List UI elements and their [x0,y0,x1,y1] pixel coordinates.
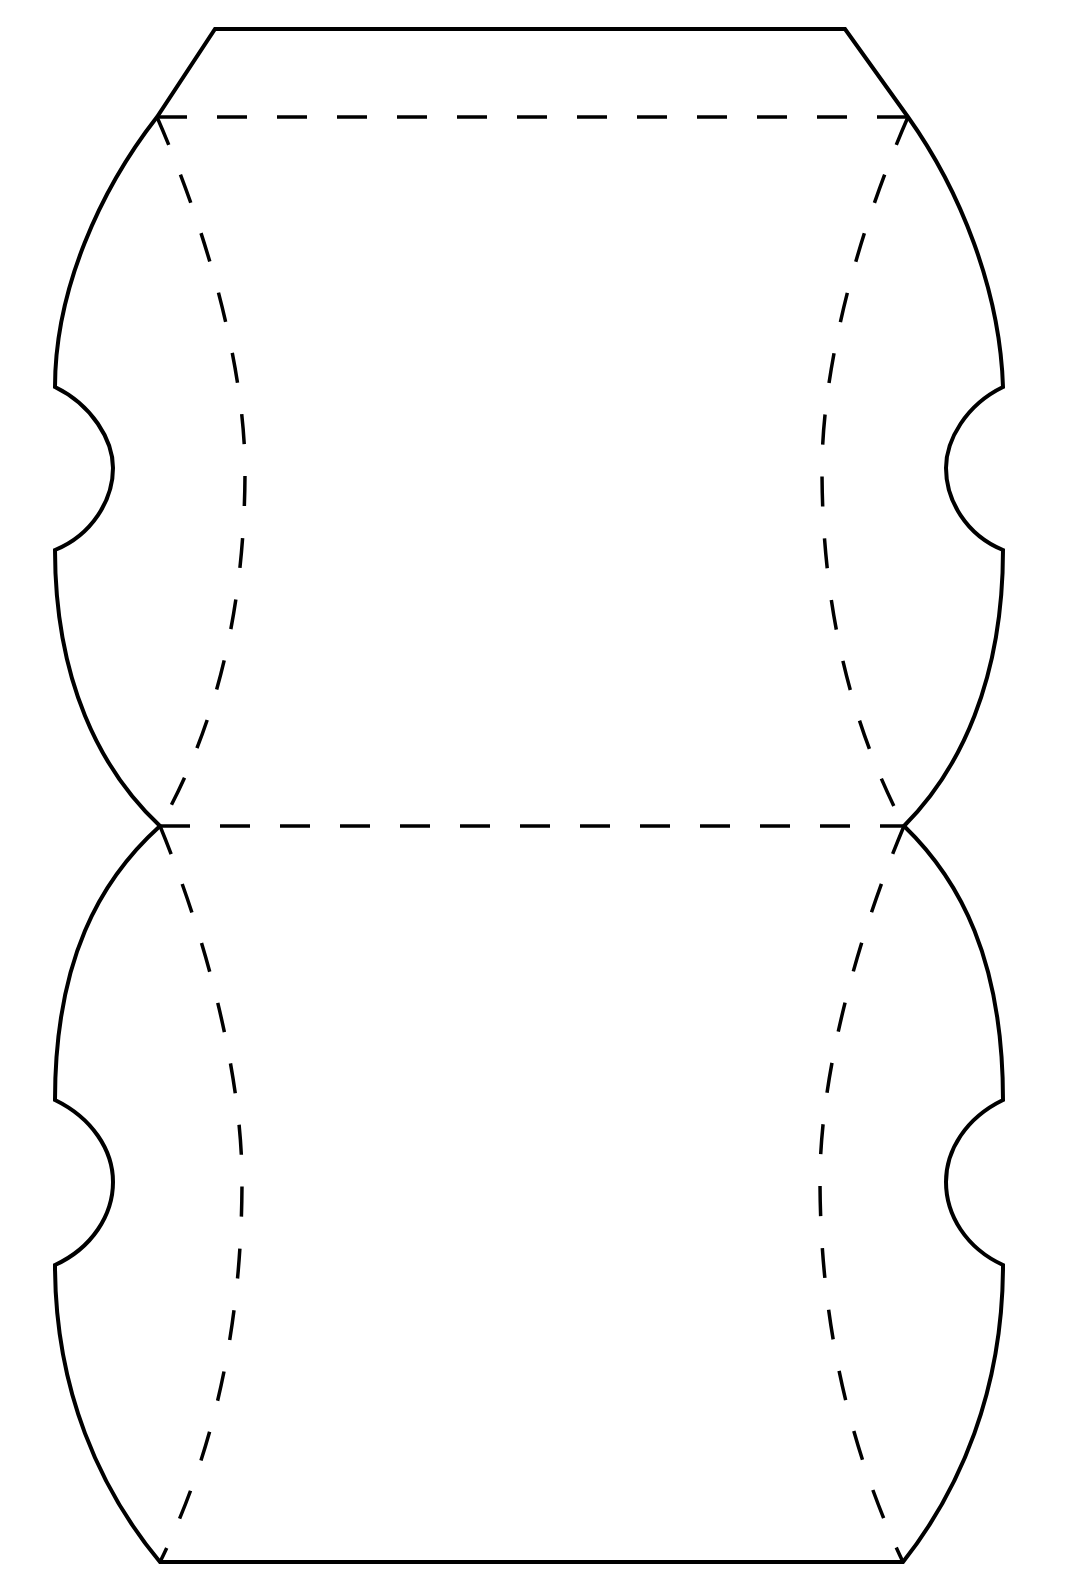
fold-curve-bottom-right [820,826,904,1562]
fold-curve-bottom-left [160,826,242,1562]
cut-outline [55,29,1003,1562]
pillow-box-template [0,0,1068,1588]
bottom-panel [160,826,904,1562]
top-panel [157,117,908,826]
fold-curve-top-left [157,117,245,826]
fold-curve-top-right [822,117,908,826]
